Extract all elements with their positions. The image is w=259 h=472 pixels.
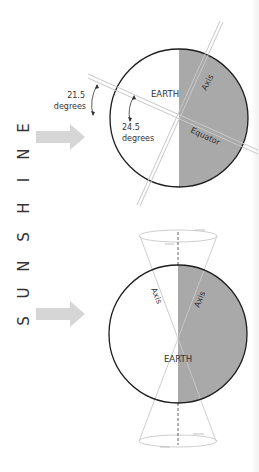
- night-side-shade: [178, 260, 258, 410]
- angle-inner-unit: degrees: [122, 134, 154, 143]
- top-earth-diagram: EARTH Axis Equator 21.5 degrees 24.5 deg…: [54, 21, 259, 206]
- sunshine-letter: I: [15, 178, 33, 182]
- sunshine-letter: S: [15, 316, 33, 326]
- earth-label: EARTH: [164, 354, 192, 364]
- sunshine-letter: U: [15, 288, 33, 299]
- sunshine-letter: S: [15, 232, 33, 242]
- obliquity-diagram: E N I H S N U S: [0, 0, 259, 472]
- angle-inner-value: 24.5: [122, 123, 140, 132]
- angle-outer-unit: degrees: [54, 102, 86, 111]
- sunshine-letter: N: [15, 148, 33, 159]
- sunlight-arrow-icon: [36, 124, 85, 150]
- sunshine-label: E N I H S N U S: [15, 123, 33, 326]
- sunshine-letter: N: [15, 260, 33, 271]
- earth-label: EARTH: [151, 89, 179, 99]
- angle-outer-value: 21.5: [67, 91, 85, 100]
- sunlight-arrow-icon: [36, 301, 85, 327]
- sunshine-letter: E: [15, 123, 33, 132]
- bottom-earth-diagram: Axis Axis EARTH: [109, 230, 258, 447]
- angle-arc-outer: [92, 85, 97, 115]
- sunshine-letter: H: [15, 202, 33, 213]
